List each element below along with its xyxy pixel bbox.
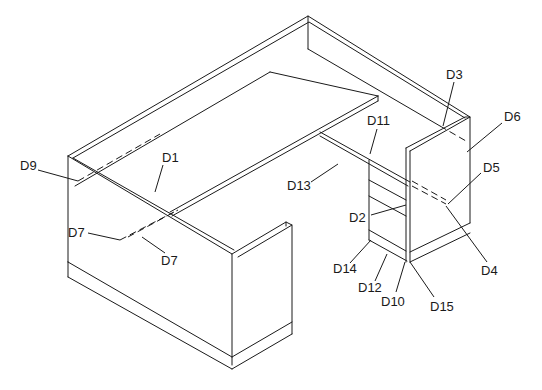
callout-d6: D6	[504, 109, 521, 124]
return-panel	[232, 222, 292, 369]
callout-d5: D5	[483, 160, 500, 175]
right-end-panel	[406, 117, 470, 262]
callout-d13: D13	[287, 178, 311, 193]
callout-d11: D11	[367, 113, 390, 128]
callout-d7: D7	[161, 253, 178, 268]
desktop-surface	[170, 72, 410, 216]
callout-d12: D12	[358, 280, 382, 295]
desk-drawing: D9 D1 D3 D6 D11 D13 D5 D2 D7 D7 D4 D14 D…	[0, 0, 542, 390]
callout-d15: D15	[430, 299, 454, 314]
callout-d4: D4	[481, 263, 498, 278]
desk-diagram: D9 D1 D3 D6 D11 D13 D5 D2 D7 D7 D4 D14 D…	[0, 0, 542, 390]
callout-d9: D9	[20, 158, 37, 173]
leader-lines	[38, 82, 502, 297]
callout-d10: D10	[381, 294, 405, 309]
callout-d3: D3	[446, 67, 463, 82]
callout-d8: D7	[68, 225, 85, 240]
callout-d14: D14	[333, 261, 357, 276]
left-end-panel	[68, 156, 234, 369]
callout-labels: D9 D1 D3 D6 D11 D13 D5 D2 D7 D7 D4 D14 D…	[20, 67, 521, 314]
callout-d2: D2	[349, 210, 366, 225]
hidden-lines	[78, 126, 466, 240]
callout-d1: D1	[162, 150, 179, 165]
